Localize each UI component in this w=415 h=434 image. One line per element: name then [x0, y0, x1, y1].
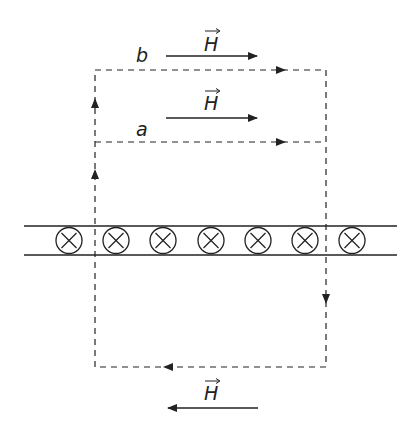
loop-b-label: b: [136, 44, 148, 66]
current-into-page-icon: [150, 228, 176, 254]
field-label-h: H: [204, 33, 218, 55]
arrowhead-up-icon: [91, 98, 99, 108]
field-arrow-middle: H: [166, 89, 257, 119]
arrowhead-left-icon: [163, 363, 173, 371]
current-into-page-icon: [245, 228, 271, 254]
arrowhead-down-icon: [322, 294, 330, 304]
arrowhead-right-icon: [276, 66, 286, 74]
current-sheet: [24, 226, 397, 255]
current-into-page-icon: [56, 228, 82, 254]
field-label-h: H: [204, 92, 218, 114]
arrowhead-up-icon: [91, 169, 99, 179]
field-arrow-bottom: H: [168, 379, 258, 409]
current-into-page-icon: [198, 228, 224, 254]
arrowhead-right-icon: [276, 138, 286, 146]
field-arrow-top: H: [166, 29, 257, 57]
amperian-loop-diagram: b a H H H: [0, 0, 415, 434]
loop-a-label: a: [136, 118, 148, 140]
current-into-page-icon: [339, 228, 365, 254]
current-into-page-icon: [292, 228, 318, 254]
loop-b: [95, 70, 326, 367]
current-into-page-icon: [103, 228, 129, 254]
field-label-h: H: [204, 382, 218, 404]
